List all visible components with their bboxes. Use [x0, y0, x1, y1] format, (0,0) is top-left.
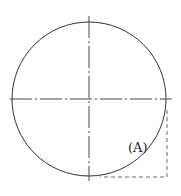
diagram-canvas: (A): [0, 0, 181, 196]
region-a-label: (A): [128, 140, 148, 155]
circle-diagram: [0, 0, 181, 196]
